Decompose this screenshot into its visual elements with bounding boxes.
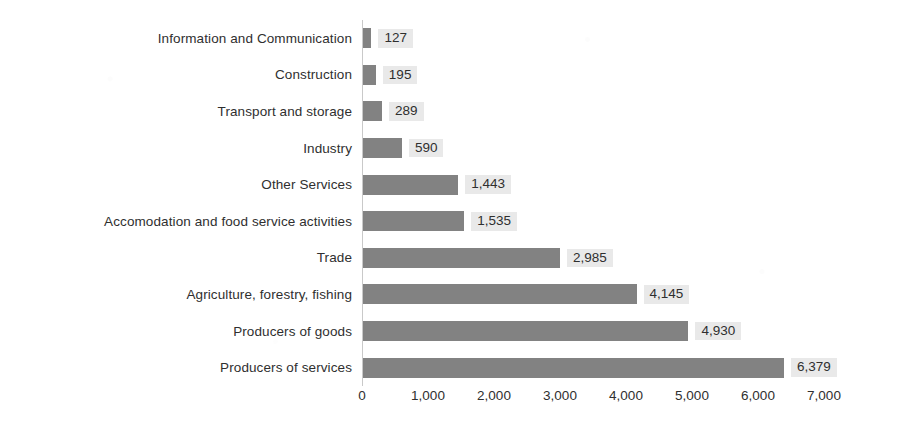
bar-group: 6,379 bbox=[363, 349, 837, 386]
x-tick-label: 0 bbox=[358, 388, 366, 403]
x-tick-label: 1,000 bbox=[411, 388, 445, 403]
bar-group: 2,985 bbox=[363, 240, 613, 277]
x-tick-label: 5,000 bbox=[675, 388, 709, 403]
bar-value-label: 4,930 bbox=[695, 322, 741, 341]
x-tick-label: 7,000 bbox=[807, 388, 841, 403]
category-label: Trade bbox=[0, 250, 352, 265]
bar-value-label: 590 bbox=[409, 139, 444, 158]
bar-group: 195 bbox=[363, 57, 417, 94]
bar-row: Accomodation and food service activities… bbox=[0, 203, 918, 240]
bar-row: Producers of services6,379 bbox=[0, 349, 918, 386]
category-label: Producers of services bbox=[0, 360, 352, 375]
x-tick-label: 6,000 bbox=[741, 388, 775, 403]
bar-row: Other Services1,443 bbox=[0, 166, 918, 203]
x-tick-label: 3,000 bbox=[543, 388, 577, 403]
bar bbox=[363, 321, 688, 341]
bar bbox=[363, 65, 376, 85]
x-tick-label: 2,000 bbox=[477, 388, 511, 403]
bar-group: 1,443 bbox=[363, 166, 511, 203]
category-label: Construction bbox=[0, 67, 352, 82]
bar-row: Agriculture, forestry, fishing4,145 bbox=[0, 276, 918, 313]
bar-row: Construction195 bbox=[0, 57, 918, 94]
bar-row: Producers of goods4,930 bbox=[0, 313, 918, 350]
bar-value-label: 195 bbox=[383, 66, 418, 85]
x-axis: 01,0002,0003,0004,0005,0006,0007,000 bbox=[0, 388, 918, 414]
bar-value-label: 289 bbox=[389, 102, 424, 121]
category-label: Other Services bbox=[0, 177, 352, 192]
bar bbox=[363, 284, 637, 304]
bar-row: Transport and storage289 bbox=[0, 93, 918, 130]
bar bbox=[363, 248, 560, 268]
bar-group: 4,145 bbox=[363, 276, 689, 313]
category-label: Producers of goods bbox=[0, 324, 352, 339]
bar-row: Industry590 bbox=[0, 130, 918, 167]
bar-group: 289 bbox=[363, 93, 424, 130]
bar bbox=[363, 175, 458, 195]
bar-value-label: 4,145 bbox=[644, 285, 690, 304]
bar-group: 127 bbox=[363, 20, 413, 57]
category-label: Accomodation and food service activities bbox=[0, 214, 352, 229]
bar bbox=[363, 211, 464, 231]
bar bbox=[363, 101, 382, 121]
category-label: Agriculture, forestry, fishing bbox=[0, 287, 352, 302]
bar-value-label: 2,985 bbox=[567, 249, 613, 268]
bar bbox=[363, 138, 402, 158]
bar-value-label: 6,379 bbox=[791, 358, 837, 377]
bar-group: 4,930 bbox=[363, 313, 741, 350]
bar-value-label: 1,535 bbox=[471, 212, 517, 231]
bar bbox=[363, 28, 371, 48]
bar bbox=[363, 358, 784, 378]
bar-chart: Information and Communication127Construc… bbox=[0, 0, 918, 438]
bar-row: Information and Communication127 bbox=[0, 20, 918, 57]
plot-area: Information and Communication127Construc… bbox=[0, 0, 918, 438]
bar-value-label: 1,443 bbox=[465, 175, 511, 194]
bar-group: 1,535 bbox=[363, 203, 517, 240]
category-label: Transport and storage bbox=[0, 104, 352, 119]
category-label: Information and Communication bbox=[0, 31, 352, 46]
bar-group: 590 bbox=[363, 130, 443, 167]
x-tick-label: 4,000 bbox=[609, 388, 643, 403]
bar-row: Trade2,985 bbox=[0, 240, 918, 277]
bar-value-label: 127 bbox=[378, 29, 413, 48]
category-label: Industry bbox=[0, 141, 352, 156]
